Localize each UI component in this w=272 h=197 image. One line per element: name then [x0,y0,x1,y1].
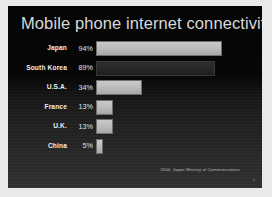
bar-chart: Japan94%South Korea89%U.S.A.34%France13%… [8,40,262,157]
bar-value-label: 94% [71,44,93,53]
bar-track [96,138,262,158]
page-number: 7 [253,178,255,183]
bar-value-label: 34% [71,83,93,92]
bar-track [96,40,262,60]
bar [96,41,222,56]
bar-track [96,99,262,119]
bar-category-label: U.S.A. [8,83,67,90]
bar [96,100,113,115]
bar-track [96,60,262,80]
bar [96,139,103,154]
bar-value-label: 5% [71,141,93,150]
bar-category-label: South Korea [8,64,67,71]
bar-value-label: 13% [71,122,93,131]
slide-frame: Mobile phone internet connectivity rate … [0,0,272,197]
chart-row: France13% [8,99,262,119]
bar [96,61,215,76]
presentation-slide: Mobile phone internet connectivity rate … [8,6,262,188]
source-attribution: 2004, Japan Ministry of Communications [161,167,240,172]
bar-track [96,79,262,99]
bar-category-label: China [8,142,67,149]
bar [96,119,113,134]
chart-row: China5% [8,138,262,158]
bar-category-label: France [8,103,67,110]
bar-track [96,118,262,138]
page-title: Mobile phone internet connectivity rate [21,14,262,33]
bar-category-label: U.K. [8,122,67,129]
bar-value-label: 13% [71,102,93,111]
bar-value-label: 89% [71,63,93,72]
bar [96,80,142,95]
chart-row: South Korea89% [8,60,262,80]
bar-category-label: Japan [8,44,67,51]
chart-row: Japan94% [8,40,262,60]
chart-row: U.K.13% [8,118,262,138]
chart-row: U.S.A.34% [8,79,262,99]
